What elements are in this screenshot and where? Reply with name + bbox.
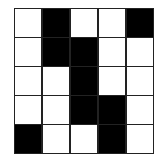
grid-cell-r2-c0 — [15, 67, 41, 95]
grid-cell-r2-c2 — [71, 67, 97, 95]
grid-cell-r4-c3 — [99, 125, 125, 153]
grid-cell-r1-c4 — [127, 38, 153, 66]
grid-cell-r1-c0 — [15, 38, 41, 66]
grid-cell-r4-c2 — [71, 125, 97, 153]
grid-cell-r1-c1 — [43, 38, 69, 66]
grid-cell-r0-c0 — [15, 9, 41, 37]
grid-cell-r1-c3 — [99, 38, 125, 66]
grid-cell-r3-c2 — [71, 96, 97, 124]
grid-cell-r3-c1 — [43, 96, 69, 124]
grid-cell-r0-c2 — [71, 9, 97, 37]
grid-cell-r0-c3 — [99, 9, 125, 37]
grid-cell-r2-c4 — [127, 67, 153, 95]
grid-cell-r2-c1 — [43, 67, 69, 95]
pixel-grid — [14, 8, 154, 154]
grid-cell-r4-c0 — [15, 125, 41, 153]
grid-cell-r2-c3 — [99, 67, 125, 95]
grid-cell-r0-c4 — [127, 9, 153, 37]
grid-cell-r0-c1 — [43, 9, 69, 37]
grid-cell-r3-c0 — [15, 96, 41, 124]
grid-cell-r1-c2 — [71, 38, 97, 66]
grid-cell-r3-c4 — [127, 96, 153, 124]
grid-cell-r3-c3 — [99, 96, 125, 124]
grid-cell-r4-c4 — [127, 125, 153, 153]
grid-cell-r4-c1 — [43, 125, 69, 153]
